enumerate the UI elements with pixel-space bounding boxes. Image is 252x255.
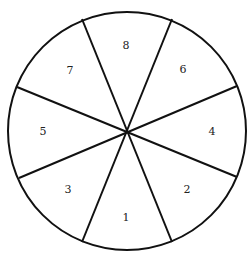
- sector-label-1: 1: [123, 211, 130, 224]
- sector-label-8: 8: [123, 39, 130, 52]
- sector-label-4: 4: [209, 125, 216, 138]
- sector-label-5: 5: [40, 125, 47, 138]
- sector-label-7: 7: [67, 64, 74, 77]
- spinner-diagram: 12345678: [0, 0, 252, 255]
- sector-label-3: 3: [65, 183, 72, 196]
- sector-label-6: 6: [180, 63, 187, 76]
- sector-label-2: 2: [184, 183, 191, 196]
